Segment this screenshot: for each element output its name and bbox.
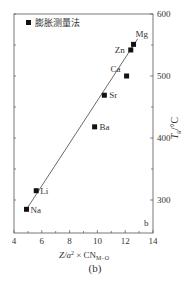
- x-tick-label: 8: [67, 236, 72, 246]
- y-tick-label: 600: [157, 9, 171, 19]
- point-label-li: Li: [40, 186, 48, 196]
- data-point-na: [24, 207, 29, 212]
- data-point-sr: [102, 93, 107, 98]
- data-point-ca: [124, 74, 129, 79]
- point-label-mg: Mg: [136, 29, 149, 39]
- legend-label: 膨胀测量法: [35, 17, 80, 28]
- fit-line: [27, 39, 138, 210]
- x-tick-label: 6: [40, 236, 45, 246]
- data-point-li: [34, 188, 39, 193]
- point-label-ca: Ca: [111, 64, 121, 74]
- data-point-zn: [128, 47, 133, 52]
- x-axis-label: Z/a2 × CNM−O: [59, 250, 110, 261]
- y-tick-label: 300: [157, 195, 171, 205]
- point-label-ba: Ba: [100, 122, 110, 132]
- y-axis-label: Tg/°C: [169, 116, 182, 139]
- point-label-na: Na: [31, 205, 42, 215]
- legend-marker-icon: [26, 20, 31, 25]
- y-tick-label: 500: [157, 71, 171, 81]
- scatter-chart: 468101214300400500600NaLiBaSrCaZnMg膨胀测量法…: [0, 0, 190, 285]
- x-tick-label: 14: [149, 236, 159, 246]
- data-point-mg: [131, 42, 136, 47]
- point-label-zn: Zn: [115, 45, 125, 55]
- x-tick-label: 10: [93, 236, 103, 246]
- panel-label: b: [144, 218, 149, 228]
- x-tick-label: 12: [121, 236, 130, 246]
- data-point-ba: [92, 124, 97, 129]
- x-tick-label: 4: [12, 236, 17, 246]
- point-label-sr: Sr: [109, 90, 117, 100]
- figure-caption: (b): [0, 262, 190, 274]
